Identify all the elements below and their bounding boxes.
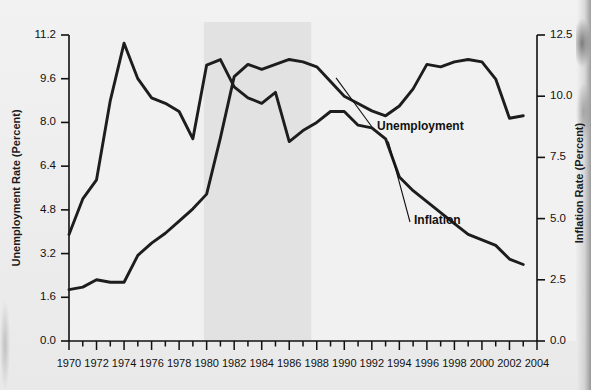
x-axis-tick-label: 1984 <box>249 357 273 369</box>
right-axis-tick-label: 5.0 <box>550 212 566 224</box>
x-axis-tick-label: 1986 <box>277 357 301 369</box>
shaded-regions <box>204 22 311 341</box>
x-axis-tick-label: 1990 <box>332 357 356 369</box>
x-axis-tick-label: 1998 <box>442 357 466 369</box>
x-axis-tick-label: 1972 <box>84 357 108 369</box>
right-axis-tick-label: 12.5 <box>550 28 572 40</box>
x-axis-tick-label: 1978 <box>167 357 191 369</box>
x-axis-ticks <box>69 341 537 350</box>
chart-figure: 0.01.63.24.86.48.09.611.2 0.02.55.07.510… <box>0 0 591 390</box>
right-axis-title: Inflation Rate (Percent) <box>573 122 585 243</box>
inflation-series-label: Inflation <box>414 213 461 227</box>
left-axis-tick-label: 0.0 <box>40 334 56 346</box>
left-axis-ticks <box>61 35 69 341</box>
right-axis-tick-label: 0.0 <box>550 334 566 346</box>
x-axis-tick-label: 1980 <box>194 357 218 369</box>
plot-background <box>68 22 576 341</box>
shaded-band <box>204 22 311 341</box>
right-axis-tick-label: 2.5 <box>550 273 566 285</box>
x-axis-tick-label: 2000 <box>470 357 494 369</box>
x-axis-tick-label: 1974 <box>112 357 136 369</box>
x-axis-tick-label: 1988 <box>305 357 329 369</box>
x-axis-tick-label: 2002 <box>497 357 521 369</box>
left-axis-tick-label: 11.2 <box>34 28 56 40</box>
left-axis-tick-label: 3.2 <box>40 247 56 259</box>
x-axis-tick-labels: 1970197219741976197819801982198419861988… <box>57 357 549 369</box>
x-axis-tick-label: 1994 <box>387 357 411 369</box>
x-axis-tick-label: 2004 <box>525 357 549 369</box>
right-axis-tick-label: 7.5 <box>550 150 566 162</box>
x-axis-tick-label: 1996 <box>415 357 439 369</box>
x-axis-tick-label: 1982 <box>222 357 246 369</box>
x-axis-tick-label: 1976 <box>139 357 163 369</box>
left-axis-title: Unemployment Rate (Percent) <box>10 109 22 266</box>
unemployment-series-label: Unemployment <box>377 119 464 133</box>
left-axis-tick-labels: 0.01.63.24.86.48.09.611.2 <box>34 28 56 346</box>
left-axis-tick-label: 4.8 <box>40 203 56 215</box>
left-axis-tick-label: 8.0 <box>40 115 56 127</box>
left-axis-tick-label: 6.4 <box>40 159 57 171</box>
left-axis-tick-label: 1.6 <box>40 290 56 302</box>
right-axis-tick-label: 10.0 <box>550 89 572 101</box>
left-axis-tick-label: 9.6 <box>40 72 56 84</box>
x-axis-tick-label: 1992 <box>360 357 384 369</box>
chart-svg: 0.01.63.24.86.48.09.611.2 0.02.55.07.510… <box>0 0 591 390</box>
x-axis-tick-label: 1970 <box>57 357 81 369</box>
